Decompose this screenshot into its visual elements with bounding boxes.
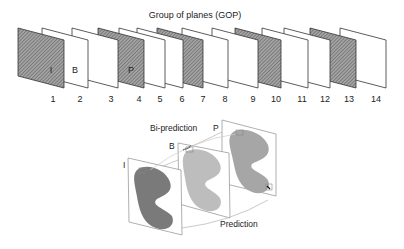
frame-label-i: I <box>123 160 125 170</box>
gop-plane-index: 1 <box>50 94 55 104</box>
gop-title: Group of planes (GOP) <box>149 10 242 20</box>
gop-plane-type-label: P <box>128 65 134 75</box>
gop-plane-index: 12 <box>320 94 330 104</box>
gop-plane-index: 2 <box>77 94 82 104</box>
gop-plane-index: 13 <box>344 94 354 104</box>
gop-plane-index: 5 <box>157 94 162 104</box>
gop-plane-index: 8 <box>222 94 227 104</box>
gop-plane-index: 4 <box>136 94 141 104</box>
gop-plane-index: 7 <box>200 94 205 104</box>
gop-plane-type-label: B <box>72 65 78 75</box>
gop-plane-indexes: 1234567891011121314 <box>50 94 381 104</box>
gop-plane-index: 14 <box>371 94 381 104</box>
gop-plane-index: 6 <box>179 94 184 104</box>
frame-label-b: B <box>169 141 175 151</box>
gop-plane-index: 9 <box>250 94 255 104</box>
gop-plane-index: 3 <box>108 94 113 104</box>
prediction-diagram: Bi-prediction Prediction I B P <box>123 120 276 235</box>
gop-diagram: Group of planes (GOP) PBI 12345678910111… <box>0 0 404 249</box>
bi-prediction-label: Bi-prediction <box>150 123 198 133</box>
frame-label-p: P <box>213 123 219 133</box>
gop-plane-index: 11 <box>297 94 306 104</box>
frame-p <box>222 120 276 196</box>
frame-b <box>178 143 230 218</box>
gop-plane-type-label: I <box>50 65 53 75</box>
gop-plane-index: 10 <box>271 94 281 104</box>
frame-i <box>128 158 182 235</box>
gop-planes: PBI <box>18 28 386 88</box>
prediction-label: Prediction <box>220 219 258 229</box>
